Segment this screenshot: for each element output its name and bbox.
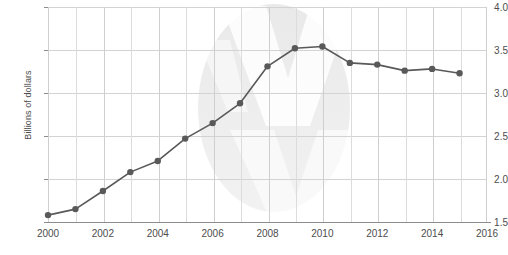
y-tick-mark [44,179,48,180]
gridline-vertical [131,7,132,222]
gridline-horizontal [49,93,486,94]
gridline-vertical [159,7,160,222]
y-tick-mark [44,50,48,51]
gridline-vertical [351,7,352,222]
x-tick-label: 2004 [136,228,180,239]
gridline-horizontal [49,136,486,137]
gridline-vertical [186,7,187,222]
gridline-vertical [214,7,215,222]
gridline-vertical [104,7,105,222]
y-tick-mark [44,136,48,137]
y-tick-label: 2.0 [466,174,508,185]
x-tick-label: 2002 [81,228,125,239]
y-tick-label: 1.5 [466,217,508,228]
gridline-vertical [406,7,407,222]
gridline-vertical [378,7,379,222]
gridline-vertical [323,7,324,222]
x-tick-label: 2000 [26,228,70,239]
x-axis-line [44,222,491,223]
gridline-vertical [269,7,270,222]
x-tick-label: 2006 [191,228,235,239]
y-tick-label: 3.0 [466,88,508,99]
gridline-vertical [296,7,297,222]
x-tick-label: 2010 [300,228,344,239]
plot-area [48,7,487,222]
gridline-vertical [461,7,462,222]
y-tick-label: 4.0 [466,2,508,13]
y-tick-label: 3.5 [466,45,508,56]
gridline-horizontal [49,50,486,51]
x-tick-label: 2014 [410,228,454,239]
y-axis-title: Billions of dollars [23,25,33,185]
y-tick-mark [44,7,48,8]
x-tick-label: 2012 [355,228,399,239]
y-tick-label: 2.5 [466,131,508,142]
gridline-vertical [76,7,77,222]
x-tick-label: 2008 [246,228,290,239]
gridline-horizontal [49,7,486,8]
line-chart: Billions of dollars 1.52.02.53.03.54.0 2… [0,0,508,255]
y-tick-mark [44,222,48,223]
gridline-vertical [241,7,242,222]
y-tick-mark [44,93,48,94]
gridline-horizontal [49,179,486,180]
x-tick-label: 2016 [465,228,508,239]
gridline-vertical [433,7,434,222]
